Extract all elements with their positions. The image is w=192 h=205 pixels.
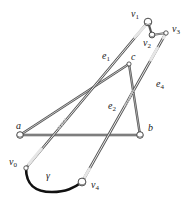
node-b [137, 132, 144, 139]
label-v3: v3 [172, 23, 180, 36]
edge-e2-e4 [82, 33, 166, 182]
label-c: c [131, 51, 136, 62]
label-e4: e4 [156, 78, 164, 91]
node-v2 [149, 32, 155, 38]
label-v1: v1 [131, 8, 139, 21]
graph-diagram: v1 v2 v3 c a b v0 v4 e1 e4 e2 γ [0, 0, 192, 205]
node-v3 [164, 31, 168, 35]
node-v1 [144, 18, 152, 26]
triangle-edges [20, 64, 140, 135]
label-gamma: γ [46, 170, 51, 181]
node-c [127, 62, 131, 66]
label-v0: v0 [9, 156, 17, 169]
label-v2: v2 [143, 37, 151, 50]
node-v0 [24, 166, 28, 170]
gamma-path [26, 168, 82, 192]
label-v4: v4 [91, 179, 99, 192]
label-b: b [148, 122, 153, 133]
label-e2: e2 [108, 100, 116, 113]
node-v4 [78, 178, 86, 186]
label-e1: e1 [102, 50, 110, 63]
label-a: a [16, 120, 21, 131]
node-a [17, 132, 24, 139]
